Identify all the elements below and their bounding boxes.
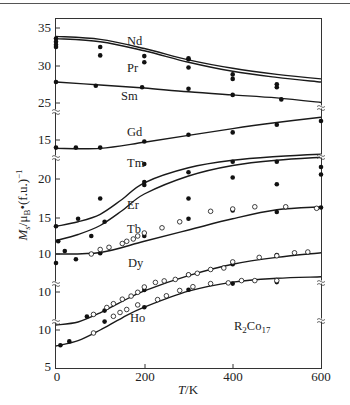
series-label-ho: Ho <box>130 311 145 325</box>
x-tick-label: 200 <box>135 369 155 384</box>
data-point-filled-tm <box>275 160 280 165</box>
data-point-open-ho <box>118 310 123 315</box>
data-point-open-dy <box>257 255 262 260</box>
data-point-open-ho <box>239 278 244 283</box>
data-point-open-tb <box>142 231 147 236</box>
data-point-filled-pr <box>98 53 103 58</box>
data-point-filled-pr <box>142 60 147 65</box>
data-point-open-tb <box>208 209 213 214</box>
data-point-open-ho <box>191 284 196 289</box>
data-point-open-ho <box>111 314 116 319</box>
data-point-filled-ho <box>230 281 235 286</box>
data-point-open-tb <box>124 239 129 244</box>
data-point-filled-tm <box>98 196 103 201</box>
y-tick-label: 25 <box>38 95 51 110</box>
data-point-filled-gd <box>186 132 191 137</box>
data-point-filled-nd <box>98 45 103 50</box>
data-point-open-ho <box>124 307 129 312</box>
data-point-filled-er <box>186 196 191 201</box>
data-point-open-dy <box>230 260 235 265</box>
data-point-filled-nd <box>142 54 147 59</box>
data-point-open-ho <box>164 294 169 299</box>
data-point-filled-pr <box>230 77 235 82</box>
series-labels: Nd Pr Sm Gd Tm Er Tb Dy Ho <box>121 34 145 325</box>
series-curves <box>56 36 321 346</box>
data-point-filled-gd <box>98 145 103 150</box>
data-point-open-dy <box>129 294 134 299</box>
data-point-filled-ho <box>67 339 72 344</box>
data-point-open-dy <box>162 279 167 284</box>
series-label-tm: Tm <box>127 156 145 170</box>
series-label-dy: Dy <box>128 256 144 270</box>
data-point-filled-er <box>230 175 235 180</box>
data-point-open-ho <box>253 278 258 283</box>
y-tick-label: 10 <box>38 322 51 337</box>
data-point-open-dy <box>153 280 158 285</box>
series-label-pr: Pr <box>127 61 139 75</box>
data-point-open-dy <box>111 301 116 306</box>
data-point-filled-ho <box>58 343 63 348</box>
data-point-open-tb <box>120 241 125 246</box>
data-point-open-dy <box>135 290 140 295</box>
data-point-open-tb <box>177 220 182 225</box>
series-label-gd: Gd <box>127 125 143 139</box>
data-point-open-dy <box>120 297 125 302</box>
series-markers <box>54 36 324 347</box>
data-point-filled-ho <box>102 319 107 324</box>
data-point-open-dy <box>292 251 297 256</box>
data-point-open-ho <box>135 303 140 308</box>
data-point-filled-sm <box>54 80 59 85</box>
data-point-open-dy <box>195 271 200 276</box>
data-point-open-tb <box>160 226 165 231</box>
data-point-open-tb <box>283 205 288 210</box>
x-tick-label: 600 <box>311 369 331 384</box>
data-point-filled-tb <box>275 210 280 215</box>
data-point-open-tb <box>107 245 112 250</box>
data-point-open-tb <box>314 206 319 211</box>
series-label-er: Er <box>127 198 140 212</box>
data-point-filled-gd <box>230 130 235 135</box>
data-point-open-tb <box>89 252 94 257</box>
data-point-open-ho <box>177 288 182 293</box>
x-axis-title: T/K <box>178 382 199 397</box>
data-point-filled-pr <box>186 56 191 61</box>
curve-tb <box>56 207 321 254</box>
data-point-filled-er <box>142 183 147 188</box>
data-point-open-tb <box>98 247 103 252</box>
data-point-filled-er <box>56 239 61 244</box>
data-point-filled-tb <box>319 205 324 210</box>
data-point-filled-tm <box>76 217 81 222</box>
data-point-filled-dy <box>85 314 90 319</box>
data-point-filled-pr <box>275 85 280 90</box>
data-point-open-dy <box>186 273 191 278</box>
x-tick-label: 400 <box>223 369 243 384</box>
y-tick-label: 5 <box>45 359 52 374</box>
data-point-filled-sm <box>186 87 191 92</box>
data-point-open-dy <box>105 305 110 310</box>
data-point-open-ho <box>155 297 160 302</box>
data-point-filled-tb <box>54 261 59 266</box>
y-tick-label: 20 <box>38 171 51 186</box>
data-point-filled-tm <box>319 165 324 170</box>
data-point-filled-gd <box>275 123 280 128</box>
y-axis-title: Ms/μB•(f.u.)−1 <box>14 169 32 241</box>
compound-annotation: R2Co17 <box>234 319 271 335</box>
data-point-open-tb <box>253 205 258 210</box>
y-tick-label: 10 <box>38 246 51 261</box>
data-point-filled-gd <box>54 145 59 150</box>
data-point-open-ho <box>226 281 231 286</box>
data-point-filled-tb <box>186 217 191 222</box>
data-point-filled-pr <box>54 42 59 47</box>
y-tick-label: 10 <box>38 284 51 299</box>
series-label-tb: Tb <box>127 222 141 236</box>
data-point-filled-tb <box>63 249 68 254</box>
data-point-filled-sm <box>279 97 284 102</box>
data-point-open-dy <box>142 285 147 290</box>
data-point-filled-nd <box>230 72 235 77</box>
y-tick-labels: 35 30 25 15 20 15 10 10 10 5 <box>38 20 51 374</box>
data-point-open-tb <box>230 207 235 212</box>
data-point-filled-tm <box>230 160 235 165</box>
data-point-filled-tb <box>74 257 79 262</box>
y-tick-label: 15 <box>38 132 51 147</box>
curve-tm <box>56 154 321 226</box>
